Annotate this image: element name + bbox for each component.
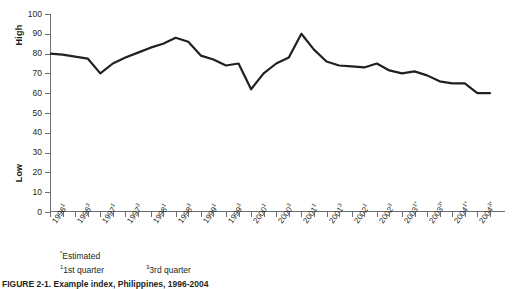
x-axis-tick-mark bbox=[339, 212, 340, 217]
y-axis-tick-label: 70 bbox=[18, 69, 42, 78]
plot-area bbox=[50, 14, 505, 212]
footnote-estimated-text: Estimated bbox=[62, 251, 100, 261]
y-axis-tick-label: 0 bbox=[18, 208, 42, 217]
x-axis-tick-mark bbox=[163, 212, 164, 217]
footnote-q3-text: 3rd quarter bbox=[149, 265, 191, 275]
footnote-q1-text: 1st quarter bbox=[63, 265, 104, 275]
footnotes: *Estimated 11st quarter33rd quarter bbox=[60, 248, 191, 276]
x-axis-tick-mark bbox=[88, 212, 89, 217]
chart-figure: High Low 0102030405060708090100 19961199… bbox=[0, 0, 514, 289]
footnote-q1: 11st quarter bbox=[60, 262, 146, 276]
x-axis-tick-mark bbox=[138, 212, 139, 217]
y-axis-tick-label: 60 bbox=[18, 89, 42, 98]
y-axis-tick-label: 50 bbox=[18, 109, 42, 118]
figure-caption: FIGURE 2-1. Example index, Philippines, … bbox=[2, 279, 208, 289]
x-axis-tick-mark bbox=[63, 212, 64, 217]
y-axis-tick-label: 10 bbox=[18, 188, 42, 197]
y-axis-tick-labels: 0102030405060708090100 bbox=[12, 0, 42, 289]
x-axis-tick-mark bbox=[490, 212, 491, 217]
y-axis-tick-label: 30 bbox=[18, 148, 42, 157]
x-axis-tick-mark bbox=[188, 212, 189, 217]
x-axis-tick-mark bbox=[440, 212, 441, 217]
x-axis-tick-mark bbox=[465, 212, 466, 217]
footnote-estimated: *Estimated bbox=[60, 248, 191, 262]
x-axis-tick-mark bbox=[415, 212, 416, 217]
x-axis-tick-mark bbox=[314, 212, 315, 217]
line-series bbox=[50, 14, 505, 212]
y-axis-tick-label: 40 bbox=[18, 128, 42, 137]
x-axis-tick-mark bbox=[113, 212, 114, 217]
x-axis-tick-mark bbox=[289, 212, 290, 217]
x-axis-tick-mark bbox=[239, 212, 240, 217]
footnote-quarters: 11st quarter33rd quarter bbox=[60, 265, 191, 275]
y-axis-tick-label: 100 bbox=[18, 10, 42, 19]
x-axis-tick-mark bbox=[264, 212, 265, 217]
x-axis-tick-mark bbox=[389, 212, 390, 217]
y-axis-tick-label: 80 bbox=[18, 49, 42, 58]
x-axis-tick-mark bbox=[213, 212, 214, 217]
x-axis-tick-mark bbox=[364, 212, 365, 217]
y-axis-tick-label: 20 bbox=[18, 168, 42, 177]
footnote-q3: 33rd quarter bbox=[146, 262, 191, 276]
y-axis-tick-label: 90 bbox=[18, 29, 42, 38]
